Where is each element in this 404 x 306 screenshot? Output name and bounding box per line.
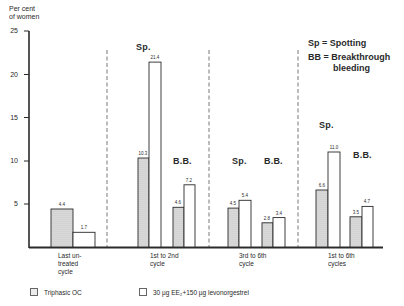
- bar-triphasic-1-6-bb: [350, 217, 362, 247]
- bar-levonorgestrel-3-6-sp: [239, 200, 251, 247]
- bar-triphasic-3-6-sp: [228, 208, 239, 247]
- legend-item-triphasic: Triphasic OC: [30, 288, 82, 296]
- key-bleeding: bleeding: [333, 63, 370, 73]
- annotation-sp-3-6: Sp.: [232, 156, 247, 166]
- x-category-line: Last un-: [58, 252, 82, 260]
- bar-levonorgestrel-3-6-bb: [273, 218, 285, 247]
- annotation-bb-3-6: B.B.: [264, 156, 283, 166]
- value-label: 3.5: [344, 210, 368, 215]
- legend-label: Triphasic OC: [44, 289, 82, 296]
- hatched-swatch-icon: [30, 288, 38, 296]
- annotation-bb-1-2: B.B.: [173, 156, 192, 166]
- open-swatch-icon: [139, 288, 147, 296]
- x-category-line: cycle: [58, 268, 82, 276]
- x-category-line: 1st to 2nd: [150, 252, 179, 260]
- x-category-line: cycle: [239, 260, 266, 268]
- x-category-line: 3rd to 6th: [239, 252, 266, 260]
- bar-triphasic-1-2-sp: [138, 158, 149, 247]
- x-category-line: cycle: [150, 260, 179, 268]
- value-label: 5.4: [233, 193, 257, 198]
- value-label: 6.6: [310, 183, 334, 188]
- bar-triphasic-1-6-sp: [316, 190, 328, 247]
- value-label: 2.8: [255, 216, 279, 221]
- x-category-line: treated: [58, 260, 82, 268]
- value-label: 11.0: [322, 145, 346, 150]
- value-label: 7.2: [177, 178, 201, 183]
- bar-levonorgestrel-1-6-sp: [328, 152, 340, 247]
- x-category-line: 1st to 6th: [328, 252, 355, 260]
- bar-triphasic-3-6-bb: [262, 223, 273, 247]
- value-label: 21.4: [143, 55, 167, 60]
- x-category-1-6: 1st to 6th cycles: [328, 252, 355, 268]
- value-label: 4.7: [355, 199, 379, 204]
- legend-label: 30 µg EE₂+150 µg levonorgestrel: [153, 289, 249, 296]
- value-label: 1.7: [72, 225, 96, 230]
- value-label: 4.4: [50, 202, 74, 207]
- value-label: 4.6: [166, 200, 190, 205]
- bar-triphasic-untreated: [51, 209, 73, 247]
- legend-item-levonorgestrel: 30 µg EE₂+150 µg levonorgestrel: [139, 288, 249, 296]
- annotation-sp-1-6: Sp.: [319, 120, 334, 130]
- value-label: 4.5: [221, 201, 245, 206]
- bar-triphasic-1-2-bb: [173, 207, 184, 247]
- value-label: 10.3: [131, 151, 155, 156]
- x-category-line: cycles: [328, 260, 355, 268]
- x-category-1-2: 1st to 2nd cycle: [150, 252, 179, 268]
- bar-levonorgestrel-untreated: [73, 232, 95, 247]
- bars: [51, 62, 373, 247]
- annotation-sp-1-2: Sp.: [136, 42, 151, 52]
- x-category-untreated: Last un- treated cycle: [58, 252, 82, 276]
- value-label: 3.4: [267, 211, 291, 216]
- x-category-3-6: 3rd to 6th cycle: [239, 252, 266, 268]
- annotation-bb-1-6: B.B.: [353, 150, 372, 160]
- key-breakthrough: BB = Breakthrough: [308, 52, 390, 62]
- bar-levonorgestrel-1-2-bb: [184, 185, 195, 247]
- key-spotting: Sp = Spotting: [308, 38, 366, 48]
